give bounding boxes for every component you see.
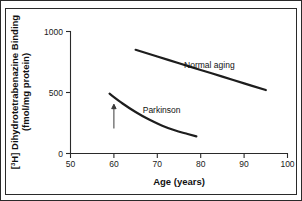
figure-border (0, 0, 302, 201)
figure-panel: 1000 500 0 50 60 70 80 90 100 Age (years… (0, 0, 302, 201)
